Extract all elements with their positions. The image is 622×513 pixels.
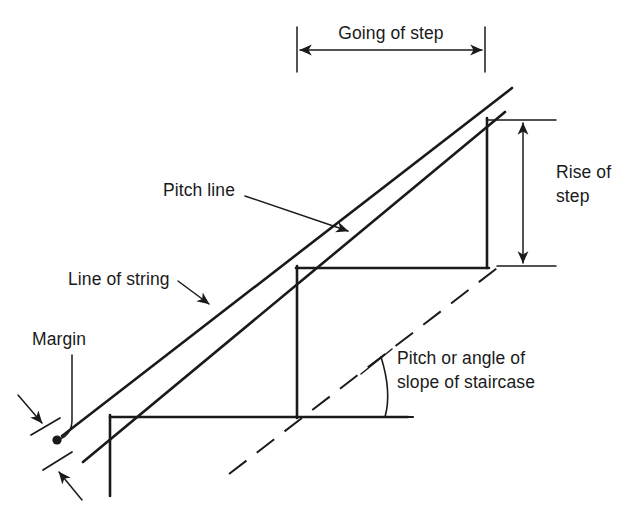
pitch-angle-tick-line bbox=[361, 349, 392, 374]
stair-diagram: Going of step Rise of step bbox=[0, 0, 622, 513]
dashed-nosing-line-group bbox=[229, 262, 505, 474]
rise-of-step-label-line1: Rise of bbox=[556, 162, 611, 182]
pitch-line-annotation: Pitch line bbox=[163, 180, 348, 231]
margin-annotation: Margin bbox=[18, 329, 86, 500]
margin-tick-lower bbox=[43, 452, 72, 470]
margin-label: Margin bbox=[32, 329, 86, 349]
stair-step-outline bbox=[110, 118, 489, 496]
margin-dot bbox=[52, 435, 61, 444]
margin-arrow-lower bbox=[59, 472, 82, 500]
line-of-string-leader bbox=[178, 281, 209, 304]
pitch-line-leader bbox=[245, 196, 348, 231]
pitch-angle-label-line1: Pitch or angle of bbox=[397, 348, 525, 368]
line-of-string-label: Line of string bbox=[68, 269, 170, 289]
margin-tick-upper bbox=[31, 418, 60, 435]
rise-of-step-dimension: Rise of step bbox=[487, 120, 611, 266]
pitch-angle-label-line2: slope of staircase bbox=[397, 372, 535, 392]
pitch-line-label: Pitch line bbox=[163, 180, 235, 200]
going-of-step-dimension: Going of step bbox=[297, 23, 485, 72]
margin-leader bbox=[60, 355, 72, 439]
line-of-string-annotation: Line of string bbox=[68, 269, 209, 304]
stair-diagram-canvas: Going of step Rise of step bbox=[0, 0, 622, 513]
rise-of-step-label-line2: step bbox=[556, 186, 589, 206]
pitch-angle-arc bbox=[381, 357, 388, 417]
dashed-nosing-line bbox=[229, 262, 505, 474]
going-of-step-label: Going of step bbox=[338, 23, 443, 43]
pitch-angle-annotation: Pitch or angle of slope of staircase bbox=[361, 348, 535, 417]
margin-arrow-upper bbox=[18, 395, 42, 423]
